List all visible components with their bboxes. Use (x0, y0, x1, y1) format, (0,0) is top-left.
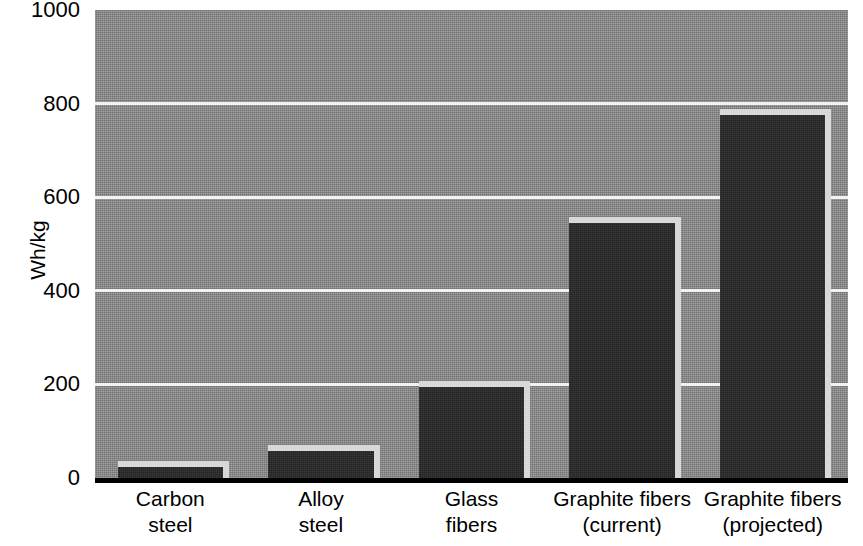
x-tick-label-carbon-steel: Carbon steel (94, 486, 248, 538)
y-tick-label-600: 600 (0, 186, 80, 208)
x-tick-label-line2: (projected) (696, 512, 850, 538)
bar-top-highlight (118, 461, 223, 467)
bar-graphite-fibers-projected[interactable] (720, 115, 825, 478)
gridline-800 (95, 102, 848, 105)
bar-right-highlight (524, 381, 530, 478)
x-axis-line (95, 478, 848, 483)
y-axis-tick-labels: 1000 800 600 400 200 0 (0, 0, 88, 546)
x-tick-label-graphite-fibers-current: Graphite fibers (current) (545, 486, 699, 538)
x-tick-label-line2: (current) (545, 512, 699, 538)
bar-top-highlight (720, 109, 825, 115)
x-tick-label-line2: steel (94, 512, 248, 538)
x-tick-label-line1: Graphite fibers (704, 487, 842, 510)
x-tick-label-line2: fibers (395, 512, 549, 538)
x-tick-label-line1: Carbon (136, 487, 205, 510)
bar-chart: Wh/kg 1000 800 600 400 200 0 (0, 0, 863, 546)
bar-right-highlight (675, 217, 681, 478)
plot-area (95, 10, 848, 478)
y-tick-label-400: 400 (0, 280, 80, 302)
y-tick-label-200: 200 (0, 373, 80, 395)
bar-right-highlight (223, 461, 229, 478)
y-tick-label-0: 0 (0, 467, 80, 489)
x-tick-label-line1: Glass (445, 487, 499, 510)
x-axis-tick-labels: Carbon steel Alloy steel Glass fibers Gr… (95, 486, 848, 546)
bar-top-highlight (419, 381, 524, 387)
bar-top-highlight (268, 445, 373, 451)
bar-graphite-fibers-current[interactable] (569, 223, 674, 478)
bar-top-highlight (569, 217, 674, 223)
bar-right-highlight (825, 109, 831, 478)
bar-glass-fibers[interactable] (419, 387, 524, 478)
bar-alloy-steel[interactable] (268, 451, 373, 478)
x-tick-label-glass-fibers: Glass fibers (395, 486, 549, 538)
x-tick-label-line1: Graphite fibers (553, 487, 691, 510)
x-tick-label-alloy-steel: Alloy steel (244, 486, 398, 538)
x-tick-label-line1: Alloy (298, 487, 344, 510)
bar-carbon-steel[interactable] (118, 467, 223, 478)
x-tick-label-line2: steel (244, 512, 398, 538)
y-tick-label-800: 800 (0, 93, 80, 115)
y-tick-label-1000: 1000 (0, 0, 80, 21)
bar-right-highlight (374, 445, 380, 478)
x-tick-label-graphite-fibers-projected: Graphite fibers (projected) (696, 486, 850, 538)
